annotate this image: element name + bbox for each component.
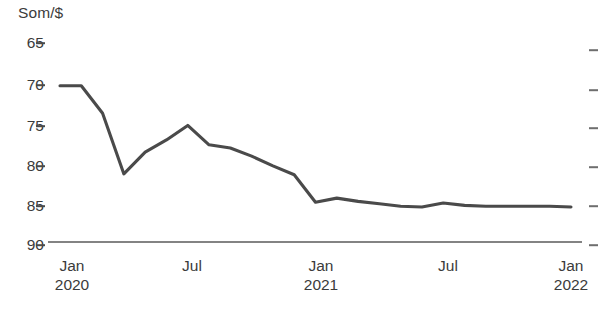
x-tick-label-jan-2021: Jan 2021 — [304, 256, 338, 294]
x-tick-year: 2022 — [554, 275, 588, 294]
x-tick-month: Jan — [308, 257, 333, 274]
x-tick-year: 2020 — [55, 275, 89, 294]
data-series-line — [60, 86, 571, 207]
x-tick-month: Jul — [182, 257, 202, 274]
x-tick-month: Jan — [558, 257, 583, 274]
x-tick-label-jul-2020: Jul — [182, 256, 202, 275]
x-tick-label-jan-2020: Jan 2020 — [55, 256, 89, 294]
x-tick-month: Jul — [438, 257, 458, 274]
x-tick-label-jan-2022: Jan 2022 — [554, 256, 588, 294]
line-chart: Som/$ 65 70 75 80 85 90 Jan 2020 Jul Jan… — [0, 0, 609, 311]
x-tick-label-jul-2021: Jul — [438, 256, 458, 275]
x-tick-month: Jan — [59, 257, 84, 274]
x-tick-year: 2021 — [304, 275, 338, 294]
